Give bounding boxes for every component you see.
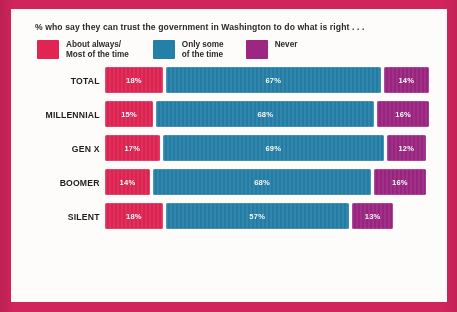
bar-segment-always: 18% <box>105 67 163 93</box>
legend-label-always: About always/ Most of the time <box>66 39 129 59</box>
page-title: % who say they can trust the government … <box>35 22 435 32</box>
chart-row-label-boomer: BOOMER <box>31 177 105 188</box>
chart-legend: About always/ Most of the time Only some… <box>37 39 435 59</box>
bar-segment-some: 68% <box>153 169 371 195</box>
chart-row-label-total: TOTAL <box>31 75 105 86</box>
legend-item-always: About always/ Most of the time <box>37 39 129 59</box>
bar-remainder <box>432 101 435 127</box>
bar-segment-some: 67% <box>166 67 381 93</box>
bar-segment-some: 68% <box>156 101 374 127</box>
bar-value-always: 18% <box>126 76 142 85</box>
bar-segment-some: 69% <box>163 135 384 161</box>
bar-value-some: 57% <box>249 212 265 221</box>
bar-value-some: 68% <box>257 110 273 119</box>
chart-rows: TOTAL18%67%14%MILLENNIAL15%68%16%GEN X17… <box>23 65 435 231</box>
bar-value-always: 14% <box>120 178 136 187</box>
bar-segment-never: 16% <box>374 169 425 195</box>
bar-value-never: 13% <box>365 212 381 221</box>
chart-row: SILENT18%57%13% <box>23 201 435 231</box>
bar-segment-never: 13% <box>352 203 394 229</box>
stacked-bar: 14%68%16% <box>105 169 435 195</box>
bar-value-some: 68% <box>254 178 270 187</box>
infographic-card: % who say they can trust the government … <box>11 9 447 302</box>
bar-value-always: 15% <box>121 110 137 119</box>
stacked-bar: 15%68%16% <box>105 101 435 127</box>
bar-value-some: 69% <box>265 144 281 153</box>
bar-value-never: 16% <box>395 110 411 119</box>
bar-segment-always: 17% <box>105 135 160 161</box>
chart-row: MILLENNIAL15%68%16% <box>23 99 435 129</box>
legend-swatch-some <box>153 40 175 59</box>
bar-segment-always: 14% <box>105 169 150 195</box>
bar-value-some: 67% <box>265 76 281 85</box>
bar-value-always: 17% <box>124 144 140 153</box>
stacked-bar: 17%69%12% <box>105 135 435 161</box>
legend-item-some: Only some of the time <box>153 39 224 59</box>
chart-row-label-gen-x: GEN X <box>31 143 105 154</box>
bar-value-always: 18% <box>126 212 142 221</box>
chart-row: GEN X17%69%12% <box>23 133 435 163</box>
chart-row-label-millennial: MILLENNIAL <box>31 109 105 120</box>
stacked-bar: 18%67%14% <box>105 67 435 93</box>
bar-remainder <box>429 169 435 195</box>
bar-segment-some: 57% <box>166 203 349 229</box>
legend-swatch-always <box>37 40 59 59</box>
legend-label-never: Never <box>275 39 298 50</box>
bar-segment-never: 16% <box>377 101 428 127</box>
chart-row: TOTAL18%67%14% <box>23 65 435 95</box>
chart-row-label-silent: SILENT <box>31 211 105 222</box>
bar-segment-never: 14% <box>384 67 429 93</box>
bar-remainder <box>432 67 435 93</box>
legend-swatch-never <box>246 40 268 59</box>
chart-row: BOOMER14%68%16% <box>23 167 435 197</box>
stacked-bar: 18%57%13% <box>105 203 435 229</box>
bar-segment-never: 12% <box>387 135 426 161</box>
bar-remainder <box>429 135 435 161</box>
bar-segment-always: 18% <box>105 203 163 229</box>
poster-frame: % who say they can trust the government … <box>0 0 457 312</box>
bar-value-never: 12% <box>398 144 414 153</box>
bar-remainder <box>396 203 435 229</box>
legend-item-never: Never <box>246 39 298 59</box>
legend-label-some: Only some of the time <box>182 39 224 59</box>
bar-value-never: 16% <box>392 178 408 187</box>
bar-segment-always: 15% <box>105 101 153 127</box>
bar-value-never: 14% <box>398 76 414 85</box>
